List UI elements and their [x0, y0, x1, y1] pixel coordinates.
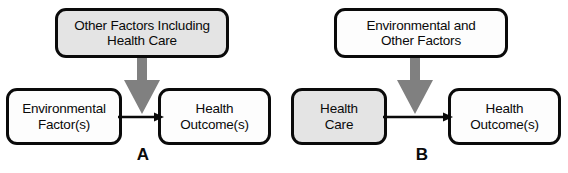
panel-b-left-box: Health Care: [291, 88, 387, 145]
panel-a-left-box-label: Environmental Factor(s): [18, 101, 110, 132]
panel-b-top-box-label: Environmental and Other Factors: [362, 18, 479, 49]
panel-a-top-box: Other Factors Including Health Care: [55, 8, 229, 58]
panel-b-top-box: Environmental and Other Factors: [334, 8, 508, 58]
diagram-figure: Other Factors Including Health Care Envi…: [0, 0, 568, 173]
panel-a-right-box-label: Health Outcome(s): [176, 101, 253, 132]
panel-b-left-box-label: Health Care: [316, 101, 362, 132]
panel-b-causal-arrow: [383, 105, 453, 129]
panel-a-causal-arrow: [118, 105, 164, 129]
panel-a-top-box-label: Other Factors Including Health Care: [70, 18, 214, 49]
right-arrow-icon: [383, 105, 453, 129]
panel-a-letter: A: [128, 145, 158, 165]
panel-a: Other Factors Including Health Care Envi…: [0, 0, 284, 173]
panel-a-right-box: Health Outcome(s): [158, 88, 271, 145]
panel-b-right-box: Health Outcome(s): [448, 88, 561, 145]
panel-b-right-box-label: Health Outcome(s): [466, 101, 543, 132]
panel-b: Environmental and Other Factors Health C…: [284, 0, 568, 173]
panel-a-left-box: Environmental Factor(s): [6, 88, 122, 145]
right-arrow-icon: [118, 105, 164, 129]
panel-b-letter: B: [407, 145, 437, 165]
